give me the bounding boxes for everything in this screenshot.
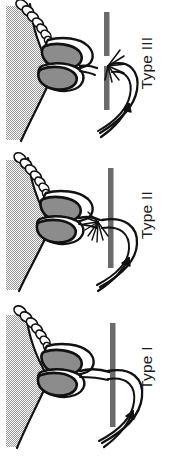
- type-label-iii: Type III: [138, 20, 156, 106]
- panel-type-i: Type I: [0, 301, 174, 453]
- duct-loop-inner: [99, 379, 134, 441]
- duct-loop: [102, 370, 142, 443]
- vertical-bar-upper: [104, 12, 110, 56]
- type-label-ii: Type II: [138, 172, 156, 258]
- panel-type-ii: Type II: [0, 150, 174, 302]
- organ-lobe-lower: [38, 67, 76, 90]
- vertical-bar: [110, 323, 116, 427]
- type-label-i: Type I: [138, 325, 156, 411]
- flow-arrow-head: [123, 104, 131, 112]
- panel-type-iii: Type III: [0, 0, 174, 152]
- classification-figure: Type III: [0, 0, 174, 456]
- organ-lobe-lower: [37, 220, 76, 243]
- organ-lobe-lower: [38, 373, 77, 396]
